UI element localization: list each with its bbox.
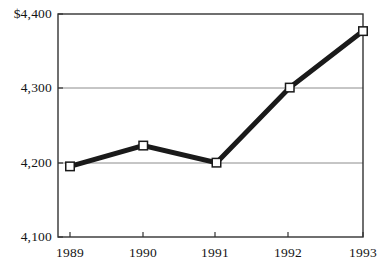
data-line-series-0 — [70, 31, 363, 166]
x-axis-label-1993: 1993 — [349, 246, 377, 260]
x-axis-label-1992: 1992 — [274, 246, 302, 260]
x-axis-label-1989: 1989 — [56, 246, 84, 260]
x-axis-ticks — [70, 232, 363, 237]
data-point-1989 — [66, 162, 75, 171]
data-point-1990 — [139, 141, 148, 150]
y-axis-label-4200: 4,200 — [0, 156, 52, 170]
y-axis-label-4100: 4,100 — [0, 230, 52, 244]
plot-frame — [58, 14, 363, 237]
data-point-1993 — [359, 27, 368, 35]
gridlines — [58, 88, 363, 163]
line-chart: $4,400 4,300 4,200 4,100 1989 1990 1991 … — [0, 0, 389, 273]
data-markers — [66, 27, 368, 171]
y-axis-label-4400: $4,400 — [0, 7, 52, 21]
x-axis-label-1990: 1990 — [129, 246, 157, 260]
data-point-1991 — [212, 158, 221, 167]
plot-border — [58, 14, 363, 237]
x-axis-label-1991: 1991 — [201, 246, 229, 260]
data-point-1992 — [286, 83, 295, 92]
y-axis-ticks — [58, 14, 63, 237]
plot-area — [0, 0, 389, 273]
y-axis-label-4300: 4,300 — [0, 81, 52, 95]
